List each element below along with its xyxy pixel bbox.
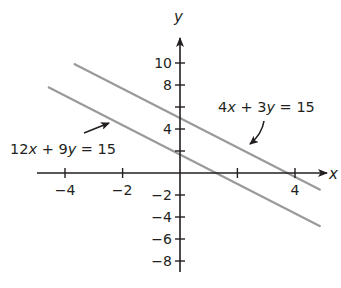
pointer-arrow-12x-9y: [84, 123, 109, 133]
eq-var: y: [265, 99, 275, 115]
y-tick-label: −8: [151, 253, 172, 269]
eq-var: y: [67, 141, 77, 157]
eq-var: x: [226, 99, 236, 115]
equation-label-12x-9y: 12x + 9y = 15: [10, 141, 116, 157]
coordinate-plane: x y −4 −2 4 10 8 4 −2 −4 −6 −8 12x + 9y …: [0, 0, 341, 288]
pointer-arrow-4x-3y: [250, 121, 264, 144]
y-tick-label: 4: [163, 121, 172, 137]
eq-coef: + 3: [236, 99, 267, 115]
y-tick-label: 8: [163, 77, 172, 93]
y-tick-label: 10: [154, 55, 172, 71]
y-axis-label: y: [173, 8, 184, 26]
y-tick-label: −4: [151, 209, 172, 225]
eq-var: x: [27, 141, 37, 157]
x-tick-label: 4: [291, 182, 300, 198]
line-4x-3y-15: [74, 64, 321, 190]
y-axis: [175, 38, 185, 272]
eq-coef: 4: [218, 99, 227, 115]
x-tick-label: −4: [55, 182, 76, 198]
eq-coef: + 9: [37, 141, 68, 157]
y-tick-label: −2: [151, 187, 172, 203]
equation-label-4x-3y: 4x + 3y = 15: [218, 99, 315, 115]
eq-coef: 12: [10, 141, 28, 157]
x-axis: [37, 168, 327, 178]
eq-rhs: = 15: [76, 141, 116, 157]
x-axis-label: x: [328, 165, 338, 183]
y-tick-label: −6: [151, 231, 172, 247]
eq-rhs: = 15: [275, 99, 315, 115]
x-tick-label: −2: [112, 182, 133, 198]
